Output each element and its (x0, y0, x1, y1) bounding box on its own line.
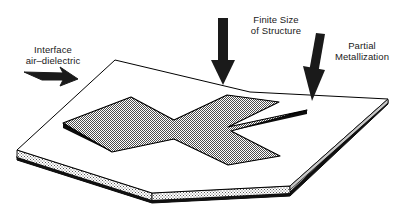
structure-diagram (0, 0, 397, 221)
label-finite-line2: of Structure (236, 25, 316, 36)
label-interface-line1: Interface (10, 44, 96, 55)
label-interface-air-dielectric: Interface air–dielectric (10, 44, 96, 66)
finite-size-arrow-icon (211, 18, 235, 85)
label-interface-line2: air–dielectric (10, 55, 96, 66)
label-partial-line2: Metallization (327, 51, 397, 62)
label-partial-line1: Partial (327, 40, 397, 51)
partial-metallization-arrow-icon (303, 33, 325, 101)
interface-arrow-icon (24, 67, 78, 86)
label-finite-size-of-structure: Finite Size of Structure (236, 14, 316, 36)
label-finite-line1: Finite Size (236, 14, 316, 25)
label-partial-metallization: Partial Metallization (327, 40, 397, 62)
